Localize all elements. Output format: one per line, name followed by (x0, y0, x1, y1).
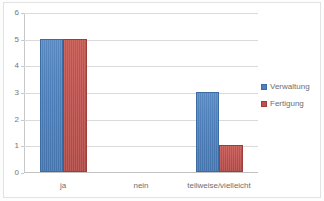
chart-title (28, 0, 228, 2)
legend-label: Fertigung (270, 99, 304, 108)
x-axis-label: ja (60, 181, 66, 190)
legend-label: Verwaltung (270, 82, 310, 91)
x-axis-line (24, 172, 258, 173)
plot-area: 0123456 janeinteilweise/vielleicht (24, 13, 258, 173)
legend-swatch-icon (261, 101, 267, 107)
x-axis-label: teilweise/vielleicht (187, 181, 251, 190)
legend-item-verwaltung[interactable]: Verwaltung (261, 82, 310, 91)
chart-legend: VerwaltungFertigung (261, 82, 310, 116)
bar-group (40, 12, 87, 172)
x-axis-label: nein (133, 181, 148, 190)
y-axis-tick-label: 3 (15, 89, 19, 97)
bar-group (196, 12, 243, 172)
bar-fertigung-ja[interactable] (63, 39, 87, 172)
bar-verwaltung-teilweisevielleicht[interactable] (196, 92, 220, 172)
y-axis-tick-mark (21, 40, 24, 41)
y-axis-tick-mark (21, 120, 24, 121)
y-axis-tick-label: 1 (15, 142, 19, 150)
bar-group (118, 12, 165, 172)
bar-fertigung-teilweisevielleicht[interactable] (219, 145, 243, 172)
y-axis-tick-mark (21, 13, 24, 14)
y-axis-tick-label: 4 (15, 62, 19, 70)
y-axis-tick-label: 5 (15, 36, 19, 44)
legend-swatch-icon (261, 84, 267, 90)
chart-container: 0123456 janeinteilweise/vielleicht Verwa… (0, 0, 324, 201)
y-axis-tick-mark (21, 66, 24, 67)
y-axis-tick-mark (21, 146, 24, 147)
bar-verwaltung-ja[interactable] (40, 39, 64, 172)
y-axis-tick-label: 2 (15, 116, 19, 124)
y-axis-tick-mark (21, 93, 24, 94)
y-axis-tick-mark (21, 173, 24, 174)
y-axis-tick-label: 0 (15, 169, 19, 177)
y-axis-tick-label: 6 (15, 9, 19, 17)
legend-item-fertigung[interactable]: Fertigung (261, 99, 310, 108)
